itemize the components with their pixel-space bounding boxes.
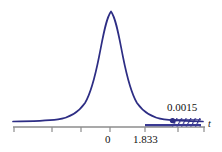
x-tick-label-critical-value: 1.833 [133,134,158,145]
x-tick-label-zero: 0 [105,134,111,145]
x-axis-label: t [208,119,211,129]
tail-area-label: 0.0015 [167,102,197,113]
critical-value-marker [170,118,175,123]
t-distribution-figure: 0 1.833 0.0015 t [0,0,222,152]
plot-canvas [0,0,222,152]
axis-tick-group [14,127,204,132]
